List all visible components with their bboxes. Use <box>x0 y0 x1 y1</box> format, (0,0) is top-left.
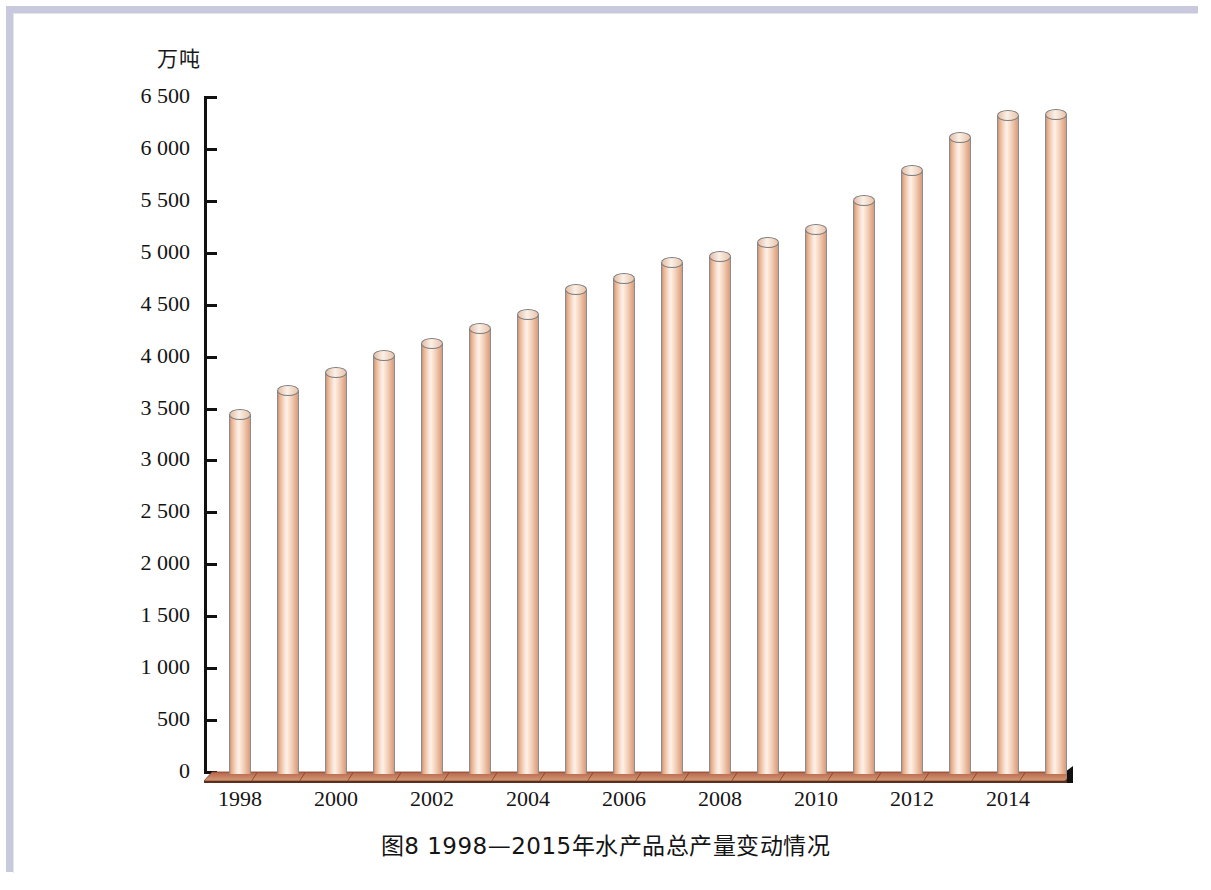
bar-body <box>517 315 539 774</box>
bar-2005[interactable] <box>565 284 587 774</box>
bar-body <box>565 290 587 774</box>
y-axis-tick-label-text: 5 500 <box>104 187 190 213</box>
bar-top-ellipse <box>517 309 539 320</box>
bar-2009[interactable] <box>757 237 779 774</box>
y-axis-tick-label-text: 5 000 <box>104 239 190 265</box>
y-axis-tick <box>204 615 217 618</box>
bar-body <box>757 243 779 774</box>
bar-top-ellipse <box>277 385 299 396</box>
y-axis-tick <box>204 200 217 203</box>
y-axis-tick <box>204 252 217 255</box>
bar-body <box>421 344 443 774</box>
y-axis-tick-label-text: 2 500 <box>104 498 190 524</box>
bar-body <box>901 171 923 774</box>
y-axis-tick-label-text: 6 500 <box>104 83 190 109</box>
y-axis-tick <box>204 148 217 151</box>
y-axis-tick-label-text: 3 000 <box>104 446 190 472</box>
y-axis-tick-label: 2 000 <box>104 550 190 576</box>
bar-body <box>805 230 827 774</box>
y-axis-tick <box>204 511 217 514</box>
bar-top-ellipse <box>1045 109 1067 120</box>
bar-2007[interactable] <box>661 257 683 774</box>
y-axis-tick <box>204 719 217 722</box>
y-axis-unit-label: 万吨 <box>157 42 201 72</box>
bar-body <box>469 329 491 774</box>
bar-2014[interactable] <box>997 110 1019 774</box>
y-axis-tick-label: 5 000 <box>104 239 190 265</box>
bar-2010[interactable] <box>805 224 827 774</box>
y-axis-tick <box>204 304 217 307</box>
bar-body <box>373 356 395 774</box>
bar-body <box>949 138 971 775</box>
bar-2001[interactable] <box>373 350 395 774</box>
bar-body <box>709 257 731 774</box>
x-axis-tick-label-2000: 2000 <box>296 786 376 812</box>
y-axis-tick-label: 4 000 <box>104 343 190 369</box>
y-axis-tick-label: 0 <box>104 758 190 784</box>
figure-caption: 图8 1998—2015年水产品总产量变动情况 <box>0 827 1211 861</box>
y-axis-tick-label-text: 6 000 <box>104 135 190 161</box>
bar-body <box>1045 115 1067 774</box>
bar-body <box>613 279 635 774</box>
bar-chart: 万吨 05001 0001 5002 0002 5003 0003 5004 0… <box>0 0 1211 890</box>
y-axis-tick-label-text: 3 500 <box>104 395 190 421</box>
bar-body <box>277 391 299 774</box>
y-axis-tick-label: 6 000 <box>104 135 190 161</box>
y-axis-tick-label: 1 000 <box>104 654 190 680</box>
bar-body <box>661 263 683 774</box>
bar-2011[interactable] <box>853 195 875 774</box>
y-axis-tick <box>204 667 217 670</box>
bar-2015[interactable] <box>1045 109 1067 774</box>
y-axis-line <box>204 96 207 774</box>
bar-top-ellipse <box>805 224 827 235</box>
bar-2006[interactable] <box>613 273 635 774</box>
bar-2000[interactable] <box>325 367 347 774</box>
bar-1998[interactable] <box>229 409 251 774</box>
y-axis-tick-label: 5 500 <box>104 187 190 213</box>
y-axis-tick <box>204 408 217 411</box>
bar-body <box>997 116 1019 774</box>
y-axis-tick-label-text: 4 000 <box>104 343 190 369</box>
bar-body <box>229 415 251 774</box>
x-axis-tick-label-2008: 2008 <box>680 786 760 812</box>
bar-2012[interactable] <box>901 165 923 774</box>
bar-top-ellipse <box>949 132 971 143</box>
page-canvas: 万吨 05001 0001 5002 0002 5003 0003 5004 0… <box>0 0 1211 890</box>
bar-top-ellipse <box>469 323 491 334</box>
y-axis-tick-label-text: 4 500 <box>104 291 190 317</box>
y-axis-tick-label-text: 2 000 <box>104 550 190 576</box>
bar-body <box>853 201 875 774</box>
x-axis-tick-label-2014: 2014 <box>968 786 1048 812</box>
bar-top-ellipse <box>613 273 635 284</box>
x-axis-tick-label-2004: 2004 <box>488 786 568 812</box>
y-axis-tick-label: 3 500 <box>104 395 190 421</box>
bar-1999[interactable] <box>277 385 299 774</box>
x-axis-tick-label-1998: 1998 <box>200 786 280 812</box>
bar-top-ellipse <box>901 165 923 176</box>
y-axis-tick-label: 500 <box>104 706 190 732</box>
y-axis-tick-label-text: 0 <box>104 758 190 784</box>
bar-2008[interactable] <box>709 251 731 774</box>
x-axis-tick-label-2012: 2012 <box>872 786 952 812</box>
bar-body <box>325 373 347 774</box>
y-axis-tick-label: 1 500 <box>104 602 190 628</box>
x-axis-tick-label-2006: 2006 <box>584 786 664 812</box>
bar-2002[interactable] <box>421 338 443 774</box>
y-axis-tick-label: 6 500 <box>104 83 190 109</box>
bar-top-ellipse <box>373 350 395 361</box>
y-axis-tick-label-text: 500 <box>104 706 190 732</box>
y-axis-tick <box>204 563 217 566</box>
x-axis-tick-label-2002: 2002 <box>392 786 472 812</box>
bar-top-ellipse <box>997 110 1019 121</box>
y-axis-tick-label: 3 000 <box>104 446 190 472</box>
x-axis-tick-label-2010: 2010 <box>776 786 856 812</box>
y-axis-tick-label: 4 500 <box>104 291 190 317</box>
y-axis-tick-label: 2 500 <box>104 498 190 524</box>
y-axis-tick <box>204 356 217 359</box>
bar-top-ellipse <box>853 195 875 206</box>
y-axis-tick-label-text: 1 000 <box>104 654 190 680</box>
bar-2003[interactable] <box>469 323 491 774</box>
bar-2013[interactable] <box>949 132 971 775</box>
bar-2004[interactable] <box>517 309 539 774</box>
bar-top-ellipse <box>709 251 731 262</box>
